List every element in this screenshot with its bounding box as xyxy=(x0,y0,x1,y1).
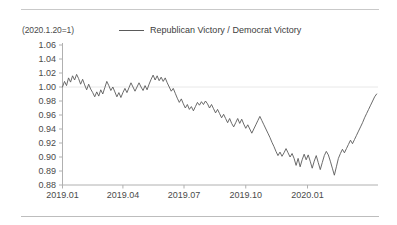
x-axis-tick-label: 2020.01 xyxy=(291,190,324,200)
chart-figure: (2020.1.20=1) Republican Victory / Democ… xyxy=(0,0,397,225)
x-axis-tick-label: 2019.07 xyxy=(168,190,201,200)
x-axis-tick-label: 2019.04 xyxy=(107,190,140,200)
x-axis-tick-label: 2019.01 xyxy=(46,190,79,200)
x-axis-tick-label: 2019.10 xyxy=(229,190,262,200)
x-axis-tick-labels: 2019.012019.042019.072019.102020.01 xyxy=(0,0,397,225)
